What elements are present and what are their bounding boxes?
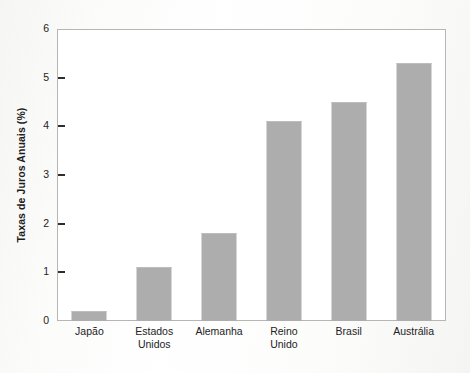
x-axis-labels: JapãoEstadosUnidosAlemanhaReinoUnidoBras… <box>57 325 446 369</box>
y-tick-label: 1 <box>9 265 49 277</box>
y-tick-label: 0 <box>9 314 49 326</box>
x-axis-label: Japão <box>57 325 122 338</box>
x-axis-label-line: Unido <box>252 338 317 351</box>
bar[interactable] <box>266 121 301 321</box>
x-axis-label: Brasil <box>316 325 381 338</box>
bar-slot <box>316 29 381 321</box>
x-axis-label-line: Brasil <box>316 325 381 338</box>
y-tick-mark <box>58 125 65 127</box>
x-axis-label: Austrália <box>381 325 446 338</box>
y-tick-label: 4 <box>9 119 49 131</box>
y-tick-label: 6 <box>9 22 49 34</box>
bars-layer <box>57 29 446 321</box>
y-tick-label: 2 <box>9 217 49 229</box>
bar-slot <box>57 29 122 321</box>
y-tick-mark <box>58 174 65 176</box>
bar[interactable] <box>331 102 366 321</box>
bar-slot <box>122 29 187 321</box>
x-axis-label: EstadosUnidos <box>122 325 187 350</box>
x-axis-label-line: Alemanha <box>187 325 252 338</box>
x-axis-label-line: Reino <box>252 325 317 338</box>
bar-slot <box>187 29 252 321</box>
bar[interactable] <box>202 233 237 321</box>
bar-chart-figure: Taxas de Juros Anuais (%) JapãoEstadosUn… <box>0 0 470 373</box>
y-tick-mark <box>58 271 65 273</box>
x-axis-label: Alemanha <box>187 325 252 338</box>
y-tick-mark <box>58 223 65 225</box>
x-axis-label-line: Unidos <box>122 338 187 351</box>
y-tick-label: 5 <box>9 71 49 83</box>
y-tick-label: 3 <box>9 168 49 180</box>
bar[interactable] <box>72 311 107 321</box>
bar-slot <box>381 29 446 321</box>
x-axis-label-line: Japão <box>57 325 122 338</box>
bar-slot <box>252 29 317 321</box>
x-axis-label-line: Estados <box>122 325 187 338</box>
y-tick-mark <box>58 77 65 79</box>
bar[interactable] <box>137 267 172 321</box>
x-axis-label-line: Austrália <box>381 325 446 338</box>
bar[interactable] <box>396 63 431 321</box>
x-axis-label: ReinoUnido <box>252 325 317 350</box>
